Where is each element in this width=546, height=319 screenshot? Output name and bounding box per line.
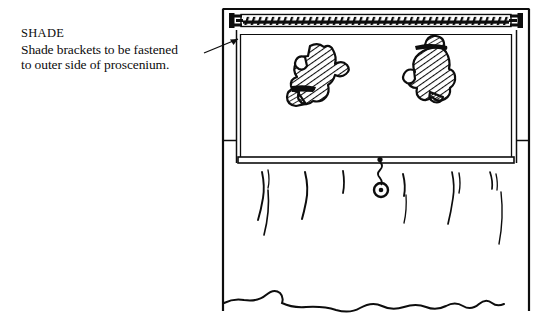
shade-hem-bar: [238, 157, 514, 163]
leader-line: [204, 39, 238, 53]
shade-diagram: [0, 0, 546, 319]
stage-curtain: [224, 170, 504, 312]
shade-bracket-right: [509, 13, 523, 28]
shade-roller: [241, 15, 511, 27]
shade-panel: [240, 33, 512, 159]
shade-bracket-left: [229, 13, 243, 28]
illustration-page: SHADE Shade brackets to be fastened to o…: [0, 0, 546, 319]
